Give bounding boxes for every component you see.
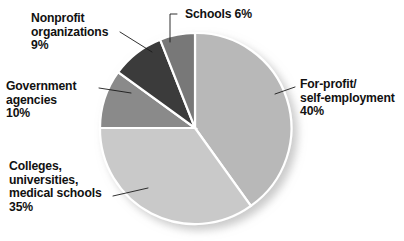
- slice-label-schools: Schools 6%: [185, 8, 295, 22]
- slice-label-for-profit: For-profit/ self-employment 40%: [300, 78, 404, 119]
- slice-label-nonprofit: Nonprofit organizations 9%: [31, 12, 143, 53]
- slice-label-colleges: Colleges, universities, medical schools …: [9, 160, 139, 214]
- pie-chart-figure: Nonprofit organizations 9% Government ag…: [0, 0, 404, 241]
- slice-label-government: Government agencies 10%: [6, 80, 131, 121]
